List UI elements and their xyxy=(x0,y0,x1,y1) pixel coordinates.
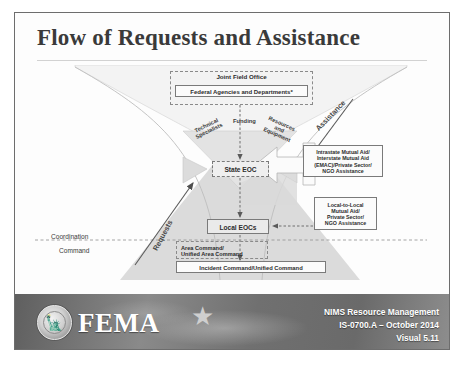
label-funding: Funding xyxy=(233,118,256,124)
local-eocs-box: Local EOCs xyxy=(207,219,269,234)
area-command-box: Area Command/ Unified Area Command xyxy=(176,241,268,259)
state-mutual-aid-box: Intrastate Mutual Aid/ Interstate Mutual… xyxy=(303,145,383,177)
incident-command-box: Incident Command/Unified Command xyxy=(176,261,326,273)
footer-visual-number: Visual 5.11 xyxy=(324,332,439,345)
fema-wordmark: FEMA xyxy=(78,308,159,339)
label-command: Command xyxy=(59,247,89,254)
footer-meta: NIMS Resource Management IS-0700.A – Oct… xyxy=(324,306,439,345)
title-divider xyxy=(37,60,427,61)
joint-field-office-label: Joint Field Office xyxy=(170,73,313,80)
presentation-slide: Flow of Requests and Assistance xyxy=(14,12,450,350)
flow-diagram: Joint Field Office Federal Agencies and … xyxy=(15,65,450,295)
eagle-glyph: 🗽 xyxy=(38,306,71,339)
state-eoc-box: State EOC xyxy=(212,161,269,177)
dhs-seal-icon: 🗽 xyxy=(37,305,72,340)
page-title: Flow of Requests and Assistance xyxy=(37,25,360,51)
federal-agencies-box: Federal Agencies and Departments* xyxy=(175,85,308,97)
label-coordination: Coordination xyxy=(51,233,88,240)
footer-course-title: NIMS Resource Management xyxy=(324,306,439,319)
slide-footer: ★ 🗽 FEMA NIMS Resource Management IS-070… xyxy=(15,294,450,349)
local-mutual-aid-box: Local-to-Local Mutual Aid/ Private Secto… xyxy=(314,197,377,230)
footer-course-code: IS-0700.A – October 2014 xyxy=(324,319,439,332)
